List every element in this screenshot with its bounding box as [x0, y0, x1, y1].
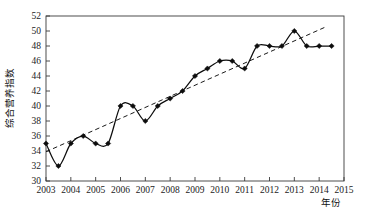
x-tick-label: 2010: [210, 185, 229, 195]
chart-container: 3032343638404244464850522003200420052006…: [0, 0, 370, 219]
x-tick-label: 2013: [285, 185, 304, 195]
data-point-marker: [267, 43, 272, 48]
data-point-marker: [43, 141, 48, 146]
y-tick-label: 50: [32, 26, 42, 36]
x-tick-label: 2005: [86, 185, 105, 195]
trend-line: [46, 27, 327, 152]
x-tick-label: 2003: [37, 185, 56, 195]
y-tick-label: 42: [32, 86, 42, 96]
series-line-nutrition-index: [46, 31, 332, 166]
x-axis-title: 年份: [321, 197, 341, 208]
y-tick-label: 34: [32, 146, 42, 156]
y-tick-label: 44: [32, 71, 42, 81]
y-tick-label: 32: [32, 161, 42, 171]
y-tick-label: 40: [32, 101, 42, 111]
x-tick-label: 2008: [161, 185, 180, 195]
x-tick-label: 2012: [260, 185, 279, 195]
x-tick-label: 2006: [111, 185, 130, 195]
x-tick-label: 2014: [310, 185, 329, 195]
y-tick-label: 46: [32, 56, 42, 66]
data-point-marker: [217, 58, 222, 63]
x-tick-label: 2004: [61, 185, 80, 195]
y-axis-title: 综合营养指数: [4, 68, 15, 128]
x-tick-label: 2011: [235, 185, 254, 195]
y-tick-label: 38: [32, 116, 42, 126]
plot-frame: [46, 16, 344, 181]
data-point-marker: [93, 141, 98, 146]
nutrition-index-line-chart: 3032343638404244464850522003200420052006…: [0, 0, 370, 219]
y-tick-label: 52: [32, 11, 42, 21]
data-point-marker: [329, 43, 334, 48]
x-tick-label: 2009: [186, 185, 205, 195]
y-tick-label: 36: [32, 131, 42, 141]
x-tick-label: 2007: [136, 185, 155, 195]
data-point-marker: [143, 118, 148, 123]
y-tick-label: 48: [32, 41, 42, 51]
data-point-marker: [292, 28, 297, 33]
x-tick-label: 2015: [335, 185, 354, 195]
data-point-marker: [317, 43, 322, 48]
